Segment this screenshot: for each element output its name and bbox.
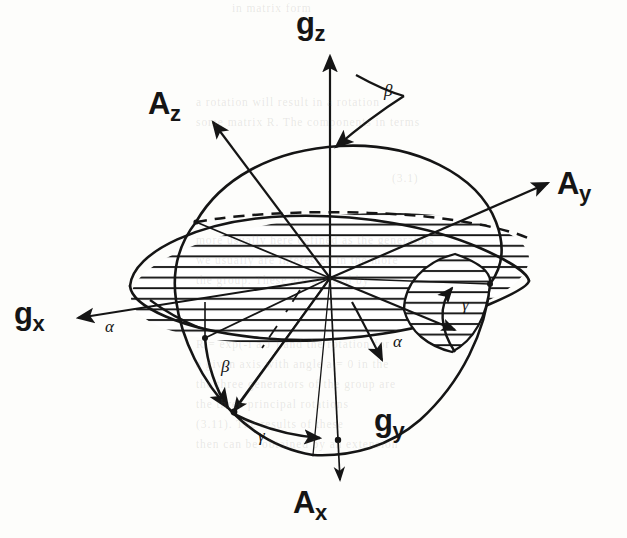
angle-label-beta-top: β [384,82,392,99]
node-upper-left [193,219,198,224]
axis-label-gz-base: g [296,6,314,41]
diagram-canvas [0,0,627,538]
axis-label-ay: Ay [557,168,591,199]
angle-label-alpha-left: α [105,318,114,335]
node-right [487,281,493,287]
axis-label-ay-base: A [557,166,579,201]
right-lens-hatch [404,254,505,420]
angle-label-gamma-lower: γ [258,427,265,444]
axis-label-az-sub: z [170,101,181,126]
horizontal-plane-ellipse [100,200,570,370]
axis-label-gx: gx [14,298,45,329]
angle-label-gamma-right: γ [462,296,469,313]
angle-label-alpha-center: α [393,333,402,350]
angle-arc-beta-top-tail [356,75,404,96]
origin-node [327,275,332,280]
axis-label-ay-sub: y [579,181,591,206]
axis-label-gy: gy [374,405,405,436]
axis-label-gx-sub: x [32,311,44,336]
axis-label-az-base: A [148,86,170,121]
axis-label-ax-sub: x [315,500,327,525]
node-left-lower [202,335,208,341]
axis-label-gx-base: g [14,296,32,331]
euler-angle-figure: in matrix form a rotation will result in… [0,0,627,538]
node-bottom [335,437,341,443]
axis-label-ax: Ax [293,487,327,518]
axis-label-ax-base: A [293,485,315,520]
axis-label-gz: gz [296,8,325,39]
axis-label-gz-sub: z [314,21,325,46]
axis-label-gy-sub: y [392,418,404,443]
angle-label-beta-lower: β [221,358,229,375]
angle-arc-beta-top [336,96,404,147]
node-bottom-left [231,409,238,416]
axis-label-gy-base: g [374,403,392,438]
axis-label-az: Az [148,88,181,119]
